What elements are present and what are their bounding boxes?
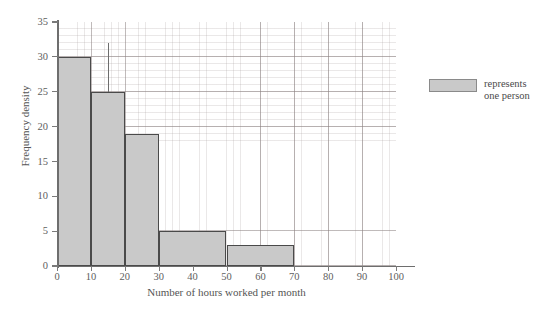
y-tick: [52, 161, 58, 162]
histogram-bar: [57, 57, 91, 266]
y-tick-label: 35: [8, 17, 48, 27]
vertical-spike-annotation: [108, 43, 109, 92]
y-tick: [52, 56, 58, 57]
x-axis-line: [55, 266, 415, 268]
x-axis-title: Number of hours worked per month: [57, 286, 396, 298]
histogram-bar: [159, 231, 227, 266]
y-tick: [52, 231, 58, 232]
y-tick-label: 5: [8, 226, 48, 236]
legend-label-line-1: represents: [484, 78, 545, 90]
y-tick: [52, 196, 58, 197]
y-tick: [52, 91, 58, 92]
legend-label-line-2: one person: [484, 90, 545, 102]
legend-swatch: [429, 79, 477, 92]
legend: represents one person: [429, 78, 545, 101]
y-tick-label: 10: [8, 191, 48, 201]
histogram-bar: [125, 134, 159, 266]
y-tick-label: 0: [8, 261, 48, 271]
histogram-bar: [91, 92, 125, 266]
histogram-figure: 0 5 10 15 20 25 30 35 0 10 20 30 40 50 6…: [0, 0, 545, 324]
y-axis-title: Frequency density: [19, 61, 31, 191]
x-tick-label: 100: [376, 271, 416, 282]
histogram-bar: [227, 245, 295, 266]
y-tick: [52, 21, 58, 22]
legend-label: represents one person: [484, 78, 545, 101]
y-tick: [52, 126, 58, 127]
